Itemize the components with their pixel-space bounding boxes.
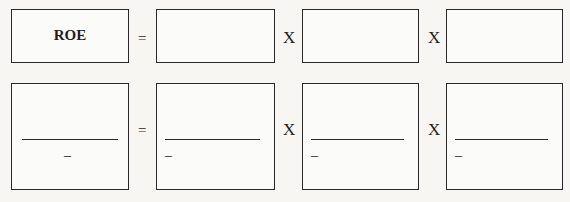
roe-fraction-box[interactable]: – [11, 83, 129, 190]
equals-sign: = [138, 120, 146, 140]
factor-box-2[interactable] [302, 9, 419, 63]
fraction-bar [165, 139, 260, 140]
fraction-box-2[interactable]: – [302, 83, 419, 190]
multiply-sign: X [428, 120, 440, 140]
denominator-blank: – [311, 149, 318, 163]
factor-box-3[interactable] [446, 9, 563, 63]
roe-label: ROE [12, 27, 128, 44]
fraction-box-3[interactable]: – [446, 83, 563, 190]
roe-box: ROE [11, 9, 129, 63]
multiply-sign: X [283, 120, 295, 140]
denominator-blank: – [455, 149, 462, 163]
multiply-sign: X [283, 28, 295, 48]
fraction-box-1[interactable]: – [156, 83, 275, 190]
equals-sign: = [138, 28, 146, 48]
fraction-bar [311, 139, 404, 140]
multiply-sign: X [428, 28, 440, 48]
fraction-bar [22, 139, 118, 140]
fraction-bar [455, 139, 548, 140]
factor-box-1[interactable] [156, 9, 275, 63]
denominator-blank: – [165, 149, 172, 163]
denominator-blank: – [64, 149, 71, 163]
